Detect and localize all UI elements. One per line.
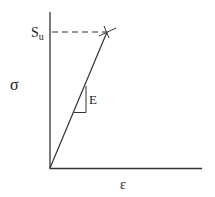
- stress-strain-line: [50, 32, 107, 168]
- su-label: Su: [31, 25, 44, 42]
- y-axis-label: σ: [10, 76, 19, 93]
- x-axis-label: ε: [120, 177, 126, 192]
- diagram-svg: Su σ E ε: [0, 0, 215, 197]
- slope-triangle: [74, 86, 86, 113]
- failure-marker-icon: [99, 26, 116, 38]
- slope-label: E: [89, 92, 97, 107]
- stress-strain-diagram: Su σ E ε: [0, 0, 215, 197]
